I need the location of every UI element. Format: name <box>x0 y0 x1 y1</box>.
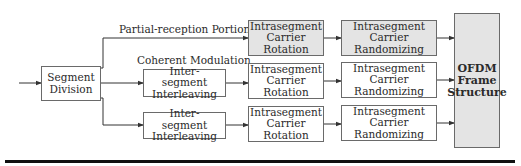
bottom-rule <box>5 160 515 163</box>
partial-reception-label: Partial-reception Portion <box>119 23 250 35</box>
inter-segment-interleaving-block-row2: Inter-segment Interleaving <box>143 69 226 97</box>
inter-segment-interleaving-block-row3: Inter-segment Interleaving <box>143 112 226 139</box>
carrier-rotation-block-row1: Intrasegment Carrier Rotation <box>248 20 324 56</box>
carrier-randomizing-block-row3: Intrasegment Carrier Randomizing <box>341 105 437 141</box>
carrier-randomizing-block-row1: Intrasegment Carrier Randomizing <box>341 20 437 56</box>
carrier-rotation-block-row2: Intrasegment Carrier Rotation <box>248 63 324 99</box>
carrier-rotation-block-row3: Intrasegment Carrier Rotation <box>248 106 324 142</box>
ofdm-frame-structure-block: OFDM Frame Structure <box>454 13 500 148</box>
segment-division-block: Segment Division <box>41 66 101 101</box>
carrier-randomizing-block-row2: Intrasegment Carrier Randomizing <box>341 62 437 98</box>
